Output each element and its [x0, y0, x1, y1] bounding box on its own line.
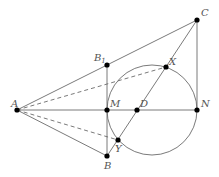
point-N — [194, 107, 199, 112]
label-D: D — [139, 98, 148, 109]
label-B: B — [103, 160, 111, 171]
label-M: M — [109, 98, 121, 109]
point-M — [104, 107, 109, 112]
segments — [17, 20, 197, 156]
point-Y — [115, 137, 120, 142]
label-Y: Y — [115, 143, 123, 154]
labels: AB1CMDNXYB — [10, 7, 211, 171]
diagram-canvas: AB1CMDNXYB — [0, 0, 219, 177]
point-B — [104, 153, 109, 158]
label-X: X — [168, 56, 177, 67]
point-X — [163, 64, 168, 69]
label-A: A — [10, 98, 18, 109]
geometry-diagram: AB1CMDNXYB — [0, 0, 219, 177]
label-B1: B1 — [93, 52, 106, 65]
point-C — [194, 17, 199, 22]
point-D — [134, 107, 139, 112]
segment-C-B — [107, 20, 197, 156]
label-C: C — [201, 7, 209, 18]
label-N: N — [200, 98, 211, 109]
